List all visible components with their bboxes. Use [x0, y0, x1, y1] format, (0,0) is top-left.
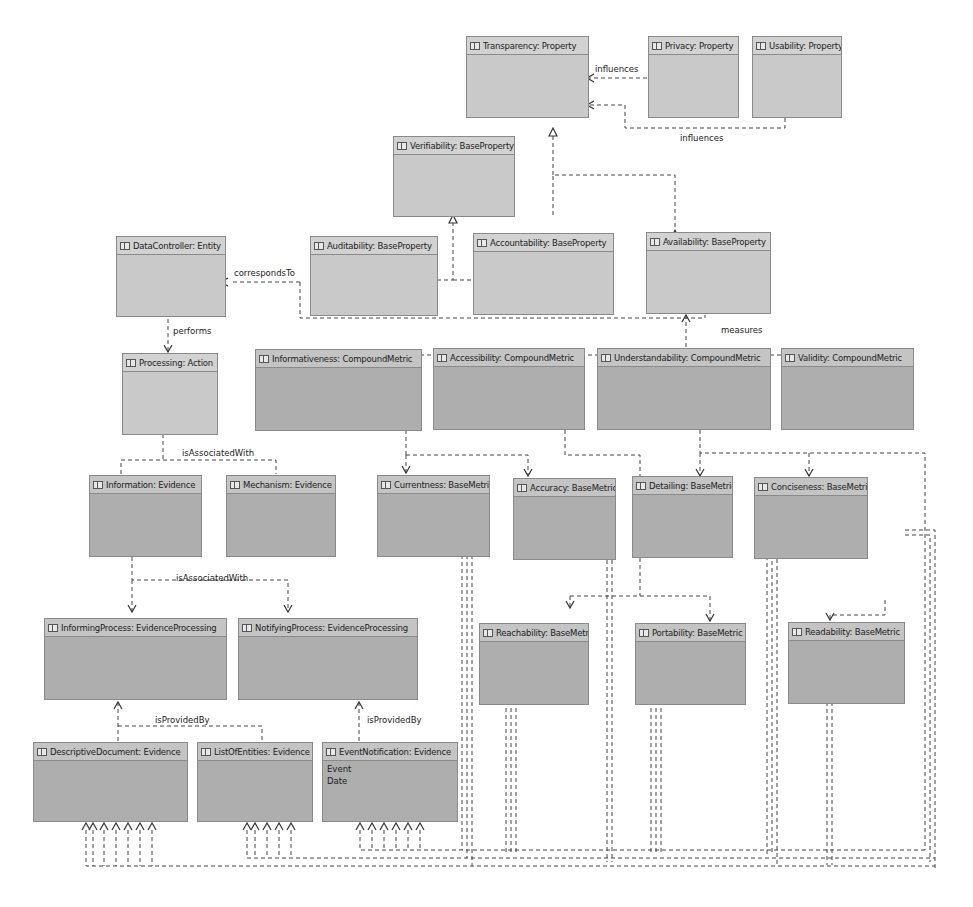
edge-label-corresponds-to: correspondsTo	[234, 268, 295, 278]
node-label: Auditability: BaseProperty	[327, 241, 432, 251]
node-label: Reachability: BaseMetric	[496, 628, 588, 638]
node-label: Detailing: BaseMetric	[649, 481, 732, 491]
class-icon	[201, 748, 211, 756]
node-label: Mechanism: Evidence	[243, 480, 332, 490]
node-privacy[interactable]: Privacy: Property	[648, 36, 739, 118]
node-usability[interactable]: Usability: Property	[752, 36, 842, 118]
node-verifiability[interactable]: Verifiability: BaseProperty	[393, 136, 515, 217]
node-datacontroller[interactable]: DataController: Entity	[116, 236, 226, 317]
node-label: InformingProcess: EvidenceProcessing	[61, 623, 217, 633]
node-processing[interactable]: Processing: Action	[122, 353, 218, 435]
node-label: Availability: BaseProperty	[663, 237, 766, 247]
class-icon	[397, 142, 407, 150]
edge-label-influences: influences	[680, 133, 723, 143]
node-label: Verifiability: BaseProperty	[410, 141, 514, 151]
node-label: Information: Evidence	[106, 480, 195, 490]
class-icon	[517, 484, 527, 492]
node-label: Accessibility: CompoundMetric	[450, 353, 574, 363]
node-label: Usability: Property	[769, 41, 841, 51]
class-icon	[636, 482, 646, 490]
class-icon	[126, 359, 136, 367]
class-icon	[792, 628, 802, 636]
class-icon	[381, 481, 391, 489]
class-icon	[785, 354, 795, 362]
class-icon	[758, 483, 768, 491]
node-notifyingprocess[interactable]: NotifyingProcess: EvidenceProcessing	[238, 618, 418, 700]
node-accuracy[interactable]: Accuracy: BaseMetric	[513, 478, 616, 560]
attribute-event: Event	[327, 763, 453, 775]
node-informativeness[interactable]: Informativeness: CompoundMetric	[255, 349, 422, 431]
node-validity[interactable]: Validity: CompoundMetric	[781, 348, 914, 430]
node-label: Portability: BaseMetric	[652, 628, 742, 638]
attribute-date: Date	[327, 775, 453, 787]
node-accessibility[interactable]: Accessibility: CompoundMetric	[433, 348, 585, 430]
node-label: Validity: CompoundMetric	[798, 353, 902, 363]
class-icon	[652, 42, 662, 50]
class-icon	[639, 629, 649, 637]
node-informingprocess[interactable]: InformingProcess: EvidenceProcessing	[44, 618, 227, 700]
edge-label-influences: influences	[595, 64, 638, 74]
node-mechanism[interactable]: Mechanism: Evidence	[226, 475, 336, 557]
node-label: Informativeness: CompoundMetric	[272, 354, 412, 364]
edge-label-performs: performs	[173, 326, 211, 336]
node-label: Accountability: BaseProperty	[490, 238, 606, 248]
edge-label-is-associated-with: isAssociatedWith	[182, 448, 254, 458]
node-label: Processing: Action	[139, 358, 213, 368]
class-icon	[93, 481, 103, 489]
node-understandability[interactable]: Understandability: CompoundMetric	[597, 348, 771, 430]
class-icon	[483, 629, 493, 637]
node-auditability[interactable]: Auditability: BaseProperty	[310, 236, 438, 316]
node-label: Understandability: CompoundMetric	[614, 353, 761, 363]
class-icon	[756, 42, 766, 50]
node-label: DescriptiveDocument: Evidence	[50, 747, 181, 757]
node-information[interactable]: Information: Evidence	[89, 475, 202, 557]
class-icon	[48, 624, 58, 632]
node-label: Privacy: Property	[665, 41, 733, 51]
node-label: EventNotification: Evidence	[339, 747, 451, 757]
class-icon	[326, 748, 336, 756]
node-currentness[interactable]: Currentness: BaseMetric	[377, 475, 490, 557]
node-label: ListOfEntities: Evidence	[214, 747, 310, 757]
node-label: Readability: BaseMetric	[805, 627, 900, 637]
class-icon	[314, 242, 324, 250]
edge-label-is-provided-by: isProvidedBy	[155, 715, 210, 725]
node-label: Currentness: BaseMetric	[394, 480, 489, 490]
class-icon	[230, 481, 240, 489]
node-detailing[interactable]: Detailing: BaseMetric	[632, 476, 733, 558]
class-icon	[437, 354, 447, 362]
node-listofentities[interactable]: ListOfEntities: Evidence	[197, 742, 313, 822]
class-icon	[259, 355, 269, 363]
diagram-canvas: Transparency: Property Privacy: Property…	[0, 0, 973, 907]
node-reachability[interactable]: Reachability: BaseMetric	[479, 623, 589, 705]
node-descriptivedocument[interactable]: DescriptiveDocument: Evidence	[33, 742, 188, 822]
class-icon	[650, 238, 660, 246]
edge-label-measures: measures	[721, 325, 763, 335]
node-label: Accuracy: BaseMetric	[530, 483, 615, 493]
edge-label-is-provided-by: isProvidedBy	[367, 715, 422, 725]
class-icon	[470, 42, 480, 50]
node-label: Conciseness: BaseMetric	[771, 482, 867, 492]
node-portability[interactable]: Portability: BaseMetric	[635, 623, 746, 705]
class-icon	[120, 242, 130, 250]
node-conciseness[interactable]: Conciseness: BaseMetric	[754, 477, 868, 559]
edge-label-is-associated-with: isAssociatedWith	[176, 573, 248, 583]
class-icon	[601, 354, 611, 362]
node-readability[interactable]: Readability: BaseMetric	[788, 622, 905, 704]
node-label: DataController: Entity	[133, 241, 221, 251]
node-accountability[interactable]: Accountability: BaseProperty	[473, 233, 614, 315]
node-label: Transparency: Property	[483, 41, 576, 51]
class-icon	[477, 239, 487, 247]
node-label: NotifyingProcess: EvidenceProcessing	[255, 623, 408, 633]
class-icon	[37, 748, 47, 756]
class-icon	[242, 624, 252, 632]
node-availability[interactable]: Availability: BaseProperty	[646, 232, 771, 314]
node-eventnotification[interactable]: EventNotification: Evidence Event Date	[322, 742, 458, 822]
node-transparency[interactable]: Transparency: Property	[466, 36, 589, 118]
